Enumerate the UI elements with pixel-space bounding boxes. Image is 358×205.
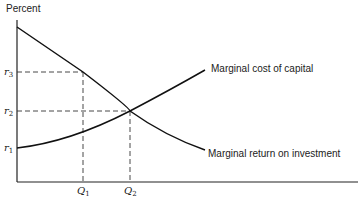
mcc-label: Marginal cost of capital bbox=[211, 63, 313, 74]
mri-label: Marginal return on investment bbox=[208, 148, 341, 159]
y-axis-title: Percent bbox=[6, 3, 41, 14]
r1-label: r1 bbox=[4, 142, 13, 155]
mri-curve bbox=[17, 27, 205, 150]
q1-label: Q1 bbox=[77, 185, 90, 198]
r2-label: r2 bbox=[4, 105, 13, 118]
chart: Percent r3 r2 r1 Q1 Q2 Marginal cost of … bbox=[0, 0, 358, 205]
q2-label: Q2 bbox=[124, 185, 137, 198]
r3-label: r3 bbox=[4, 66, 13, 79]
mcc-curve bbox=[17, 70, 205, 148]
